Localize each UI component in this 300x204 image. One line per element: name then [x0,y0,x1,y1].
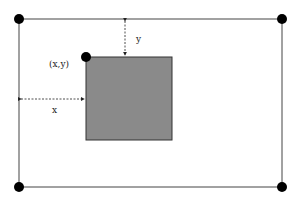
corner-dot-bottom-right [277,182,287,192]
corner-dot-top-right [277,14,287,24]
position-diagram: (x,y) x y [0,0,300,204]
x-offset-label: x [52,105,57,115]
corner-dot-top-left [14,14,24,24]
corner-dot-bottom-left [14,182,24,192]
y-offset-label: y [135,34,142,44]
inner-element-rect [86,57,172,140]
origin-label: (x,y) [49,59,69,69]
origin-dot [81,52,91,62]
